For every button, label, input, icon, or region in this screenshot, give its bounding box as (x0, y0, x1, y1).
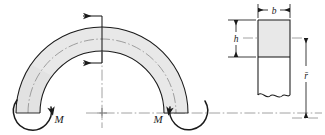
width-dimension: b (258, 4, 290, 18)
figure-canvas: b h r̄ M M (0, 0, 325, 135)
moment-left-label: M (53, 113, 64, 125)
width-label: b (272, 6, 277, 16)
cross-section-shaded-area (258, 20, 290, 57)
mean-radius-label: r̄ (304, 71, 309, 81)
mean-radius-dimension: r̄ (292, 38, 318, 118)
curved-beam-figure: b h r̄ M M (0, 0, 325, 135)
rectangular-cross-section (258, 20, 290, 97)
height-label: h (234, 34, 239, 44)
moment-right-label: M (152, 113, 163, 125)
arc-center-plus-mark (97, 108, 107, 118)
height-dimension: h (228, 20, 256, 57)
cross-section-lower-area (258, 57, 290, 95)
